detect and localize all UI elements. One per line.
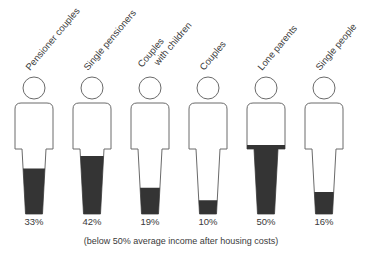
category-label: Lone parents xyxy=(255,23,299,73)
head-icon xyxy=(197,77,219,99)
head-icon xyxy=(313,77,335,99)
figure-couples-with-children: Coupleswith children19% xyxy=(131,13,194,227)
category-label: Pensioner couples xyxy=(23,5,82,72)
figure-pensioner-couples: Pensioner couples33% xyxy=(15,5,82,227)
pictogram-chart: Pensioner couples33%Single pensioners42%… xyxy=(0,0,380,264)
figure-couples: Couples10% xyxy=(189,38,228,227)
value-label: 10% xyxy=(198,216,218,227)
value-fill xyxy=(247,145,285,214)
value-fill xyxy=(314,192,333,214)
value-label: 33% xyxy=(24,216,44,227)
head-icon xyxy=(81,77,103,99)
value-label: 50% xyxy=(256,216,276,227)
value-fill xyxy=(23,168,45,214)
value-fill xyxy=(199,200,217,214)
figure-single-pensioners: Single pensioners42% xyxy=(73,7,138,227)
category-label: Single pensioners xyxy=(81,7,138,72)
category-label: Single people xyxy=(313,21,358,72)
category-label: Couples xyxy=(197,38,228,72)
category-label: Coupleswith children xyxy=(135,13,194,77)
head-icon xyxy=(139,77,161,99)
value-fill xyxy=(140,188,160,214)
figure-lone-parents: Lone parents50% xyxy=(247,23,299,227)
body-icon xyxy=(189,103,227,214)
figure-single-people: Single people16% xyxy=(305,21,359,227)
value-label: 42% xyxy=(82,216,102,227)
value-label: 19% xyxy=(140,216,160,227)
head-icon xyxy=(255,77,277,99)
figures-group: Pensioner couples33%Single pensioners42%… xyxy=(15,5,359,227)
value-label: 16% xyxy=(314,216,334,227)
value-fill xyxy=(80,156,103,214)
chart-footnote: (below 50% average income after housing … xyxy=(84,236,279,246)
head-icon xyxy=(23,77,45,99)
